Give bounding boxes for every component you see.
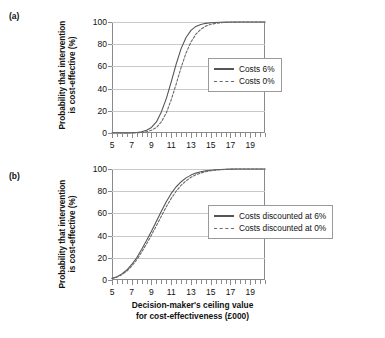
x-tick-label: 9 <box>149 287 154 297</box>
y-tick-mark <box>108 66 112 67</box>
y-tick-label: 40 <box>98 84 107 94</box>
x-tick-label: 9 <box>149 140 154 150</box>
x-tick-mark-minor <box>265 280 266 284</box>
y-tick-label: 0 <box>102 275 107 285</box>
x-tick-label: 13 <box>186 287 195 297</box>
x-tick-label: 17 <box>226 287 235 297</box>
x-tick-mark-major <box>250 133 251 138</box>
y-tick-label: 40 <box>98 231 107 241</box>
panel-a-label: (a) <box>9 11 19 21</box>
x-tick-label: 17 <box>226 140 235 150</box>
y-tick-mark <box>108 236 112 237</box>
x-tick-mark-minor <box>186 133 187 137</box>
x-tick-mark-minor <box>206 133 207 137</box>
panel-a-y-axis-title-line2: is cost-effective (%) <box>68 11 78 139</box>
y-tick-label: 20 <box>98 106 107 116</box>
x-tick-mark-minor <box>216 280 217 284</box>
panel-b-label: (b) <box>9 171 20 181</box>
x-tick-mark-minor <box>226 280 227 284</box>
x-tick-mark-major <box>230 133 231 138</box>
x-tick-mark-minor <box>127 280 128 284</box>
y-tick-mark <box>108 89 112 90</box>
x-tick-mark-minor <box>176 133 177 137</box>
x-tick-mark-minor <box>137 280 138 284</box>
x-tick-mark-major <box>112 133 113 138</box>
x-tick-mark-minor <box>196 133 197 137</box>
x-axis-title: Decision-maker's ceiling value for cost-… <box>0 300 385 322</box>
x-tick-label: 7 <box>129 287 134 297</box>
x-tick-mark-major <box>171 133 172 138</box>
x-tick-mark-minor <box>206 280 207 284</box>
panel-a-y-axis-title: Probability that intervention is cost-ef… <box>58 11 78 139</box>
y-tick-mark <box>108 213 112 214</box>
y-tick-label: 60 <box>98 208 107 218</box>
y-tick-label: 80 <box>98 39 107 49</box>
x-tick-label: 19 <box>245 140 254 150</box>
x-tick-mark-minor <box>196 280 197 284</box>
x-tick-mark-minor <box>147 133 148 137</box>
x-tick-mark-major <box>191 133 192 138</box>
x-tick-label: 5 <box>110 287 115 297</box>
x-tick-label: 19 <box>245 287 254 297</box>
legend-item: Costs discounted at 6% <box>214 210 326 222</box>
x-tick-mark-major <box>211 280 212 285</box>
legend-label: Costs 0% <box>239 76 275 86</box>
x-tick-mark-major <box>132 133 133 138</box>
x-tick-mark-minor <box>240 133 241 137</box>
x-tick-mark-minor <box>181 133 182 137</box>
x-tick-mark-major <box>250 280 251 285</box>
panel-a-y-axis-title-line1: Probability that intervention <box>58 11 68 139</box>
x-tick-mark-minor <box>260 280 261 284</box>
legend-dashed-line-icon <box>214 228 234 229</box>
x-tick-label: 11 <box>167 287 176 297</box>
x-tick-mark-minor <box>166 133 167 137</box>
x-tick-mark-minor <box>117 280 118 284</box>
x-tick-mark-minor <box>260 133 261 137</box>
x-tick-mark-major <box>151 133 152 138</box>
y-tick-mark <box>108 22 112 23</box>
x-tick-mark-minor <box>235 133 236 137</box>
x-tick-mark-minor <box>235 280 236 284</box>
legend-dashed-line-icon <box>214 81 234 82</box>
x-tick-mark-minor <box>240 280 241 284</box>
panel-b-y-axis-title: Probability that intervention is cost-ef… <box>58 168 78 300</box>
panel-b-y-axis-title-line2: is cost-effective (%) <box>68 168 78 300</box>
x-tick-mark-minor <box>166 280 167 284</box>
y-tick-mark <box>108 111 112 112</box>
x-tick-mark-major <box>171 280 172 285</box>
x-tick-mark-minor <box>127 133 128 137</box>
x-tick-label: 15 <box>206 140 215 150</box>
x-tick-mark-minor <box>221 280 222 284</box>
y-tick-mark <box>108 191 112 192</box>
y-tick-label: 60 <box>98 61 107 71</box>
y-tick-label: 0 <box>102 128 107 138</box>
x-tick-mark-major <box>151 280 152 285</box>
x-tick-mark-minor <box>142 280 143 284</box>
x-tick-mark-minor <box>176 280 177 284</box>
x-tick-mark-minor <box>147 280 148 284</box>
y-tick-label: 100 <box>93 164 107 174</box>
legend-label: Costs discounted at 0% <box>239 223 326 233</box>
y-tick-label: 100 <box>93 17 107 27</box>
legend-item: Costs 6% <box>214 63 275 75</box>
panel-b: (b) Probability that intervention is cos… <box>0 160 385 338</box>
x-tick-mark-minor <box>161 280 162 284</box>
x-tick-mark-minor <box>142 133 143 137</box>
x-tick-label: 13 <box>186 140 195 150</box>
x-tick-mark-minor <box>216 133 217 137</box>
x-tick-mark-major <box>191 280 192 285</box>
y-tick-mark <box>108 44 112 45</box>
x-tick-mark-minor <box>255 280 256 284</box>
legend-label: Costs discounted at 6% <box>239 211 326 221</box>
panel-b-legend: Costs discounted at 6%Costs discounted a… <box>208 205 333 239</box>
x-tick-label: 11 <box>167 140 176 150</box>
legend-solid-line-icon <box>214 215 234 216</box>
y-tick-mark <box>108 258 112 259</box>
x-tick-mark-minor <box>122 280 123 284</box>
x-tick-label: 5 <box>110 140 115 150</box>
panel-a-legend: Costs 6%Costs 0% <box>208 58 282 92</box>
y-tick-mark <box>108 169 112 170</box>
x-tick-mark-minor <box>117 133 118 137</box>
y-tick-label: 80 <box>98 186 107 196</box>
x-tick-mark-major <box>112 280 113 285</box>
